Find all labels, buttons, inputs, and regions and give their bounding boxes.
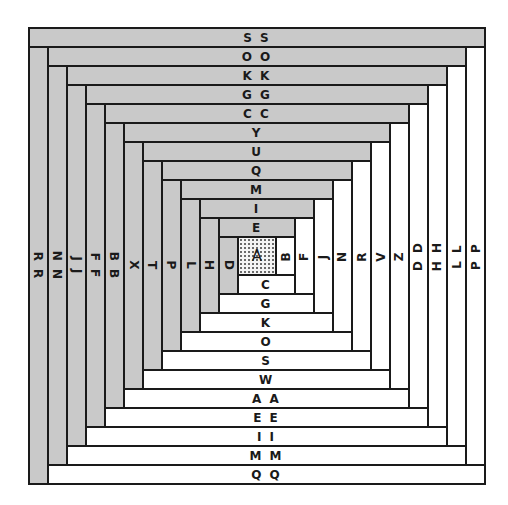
- strip-gg: G G: [85, 84, 429, 105]
- strip-n: N: [332, 179, 353, 333]
- strip-rr: R R: [28, 46, 49, 485]
- strip-label: H H: [432, 241, 444, 271]
- strip-q: Q: [161, 160, 353, 181]
- strip-label: H: [203, 259, 215, 271]
- strip-hh: H H: [427, 84, 448, 428]
- strip-k: K: [199, 312, 334, 333]
- strip-label: U: [251, 146, 263, 158]
- strip-x: X: [123, 141, 144, 390]
- strip-label: A: [252, 249, 262, 264]
- strip-label: B B: [109, 251, 121, 279]
- strip-e: E: [218, 217, 296, 238]
- strip-label: W: [259, 374, 274, 386]
- strip-p: P: [161, 179, 182, 352]
- strip-bb: B B: [104, 122, 125, 409]
- strip-ff: F F: [85, 103, 106, 428]
- strip-b: B: [275, 236, 296, 276]
- strip-label: Q: [251, 165, 263, 177]
- strip-c: C: [237, 274, 296, 295]
- strip-label: S S: [243, 32, 270, 44]
- strip-label: P P: [470, 242, 482, 270]
- strip-label: K K: [243, 70, 272, 82]
- strip-label: C C: [243, 108, 271, 120]
- strip-label: F: [298, 251, 310, 261]
- strip-label: J: [318, 253, 330, 259]
- strip-label: R R: [33, 251, 45, 280]
- strip-label: S: [261, 355, 272, 367]
- strip-label: M M: [249, 450, 283, 462]
- strip-h: H: [199, 217, 220, 314]
- strip-label: F F: [90, 252, 102, 279]
- strip-label: B: [280, 250, 292, 261]
- strip-label: M: [250, 184, 264, 196]
- strip-u: U: [142, 141, 372, 162]
- strip-l: L: [180, 198, 201, 333]
- strip-ss: S S: [28, 27, 486, 48]
- strip-label: X: [127, 260, 139, 271]
- strip-m: M: [180, 179, 334, 200]
- strip-label: E: [252, 222, 262, 234]
- strip-label: N N: [52, 250, 64, 280]
- strip-g: G: [218, 293, 315, 314]
- strip-y: Y: [123, 122, 391, 143]
- strip-oo: O O: [47, 46, 467, 67]
- strip-j: J: [313, 198, 334, 314]
- strip-ll: L L: [446, 65, 467, 447]
- strip-label: A A: [252, 393, 281, 405]
- strip-kk: K K: [66, 65, 448, 86]
- strip-mm: M M: [66, 445, 467, 466]
- strip-ii: I I: [85, 426, 448, 447]
- strip-label: P: [165, 260, 177, 271]
- strip-label: Y: [252, 127, 263, 139]
- strip-dd: D D: [408, 103, 429, 409]
- strip-label: O O: [242, 51, 273, 63]
- strip-label: D: [223, 260, 235, 272]
- strip-label: R: [356, 250, 368, 261]
- strip-label: O: [260, 336, 272, 348]
- strip-jj: J J: [66, 84, 87, 447]
- strip-t: T: [142, 160, 163, 371]
- strip-s: S: [161, 350, 372, 371]
- strip-label: D D: [413, 241, 425, 271]
- strip-nn: N N: [47, 65, 68, 466]
- strip-pp: P P: [465, 46, 486, 466]
- strip-label: K: [261, 317, 272, 329]
- strip-o: O: [180, 331, 353, 352]
- strip-label: L: [185, 261, 197, 271]
- strip-label: C: [261, 279, 272, 291]
- strip-r: R: [351, 160, 372, 352]
- log-cabin-diagram: ABCDEFGHIJKLMNOPQRSTUVWXYZA AB BC CD DE …: [0, 0, 508, 505]
- strip-label: N: [336, 250, 348, 262]
- strip-z: Z: [389, 122, 410, 390]
- strip-v: V: [370, 141, 391, 371]
- strip-cc: C C: [104, 103, 410, 124]
- strip-a: A: [237, 236, 277, 276]
- strip-label: G G: [242, 89, 272, 101]
- strip-ee: E E: [104, 407, 429, 428]
- strip-label: J J: [71, 256, 83, 275]
- strip-label: I: [254, 203, 260, 215]
- strip-label: T: [147, 260, 159, 270]
- strip-label: I I: [257, 431, 276, 443]
- strip-label: G: [261, 298, 273, 310]
- strip-aa: A A: [123, 388, 410, 409]
- strip-label: V: [374, 250, 386, 261]
- strip-label: L L: [451, 243, 463, 268]
- strip-i: I: [199, 198, 315, 219]
- strip-w: W: [142, 369, 391, 390]
- strip-d: D: [218, 236, 239, 295]
- strip-qq: Q Q: [47, 464, 486, 485]
- strip-label: Z: [393, 251, 405, 262]
- strip-label: Q Q: [251, 469, 282, 481]
- strip-label: E E: [253, 412, 280, 424]
- strip-f: F: [294, 217, 315, 295]
